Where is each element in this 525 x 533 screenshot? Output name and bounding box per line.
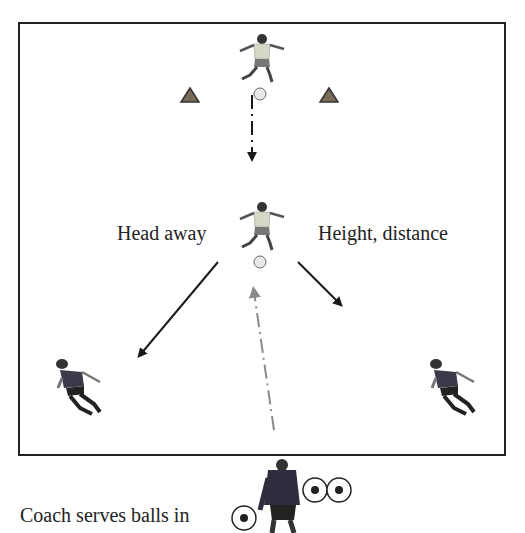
head-away-arrow-icon	[140, 262, 218, 355]
diagram-graphics	[0, 0, 525, 533]
coach-label: Coach serves balls in	[20, 504, 189, 527]
server-player-icon	[240, 34, 284, 82]
receiver-left-icon	[56, 359, 100, 414]
head-away-label: Head away	[117, 222, 206, 245]
height-distance-arrow-icon	[298, 262, 340, 304]
heading-player-icon	[240, 202, 284, 250]
serve-arrow-icon	[254, 292, 274, 430]
height-distance-label: Height, distance	[318, 222, 448, 245]
cone-right-icon	[320, 88, 338, 102]
coach-icon	[260, 459, 300, 533]
cone-left-icon	[181, 88, 199, 102]
receiver-right-icon	[430, 359, 474, 414]
